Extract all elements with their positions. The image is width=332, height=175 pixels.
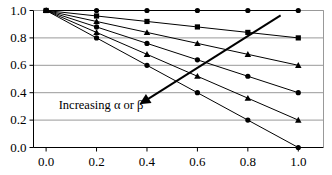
chart-figure: 0.00.20.40.60.81.0 0.00.20.40.60.81.0 In… (0, 0, 332, 175)
data-point (144, 63, 149, 68)
y-tick-label-0.6: 0.6 (0, 58, 27, 71)
data-point (93, 29, 100, 35)
series-line-3 (46, 11, 298, 93)
series-line-1 (46, 11, 298, 38)
data-point (144, 51, 151, 57)
data-point (296, 145, 301, 150)
plot-canvas (0, 0, 332, 175)
data-point (296, 35, 301, 40)
y-tick-label-0.0: 0.0 (0, 141, 27, 154)
y-tick-label-0.8: 0.8 (0, 31, 27, 44)
annotation-label-0: Increasing α or β (59, 99, 144, 112)
series-line-5 (46, 11, 298, 148)
data-point (195, 24, 200, 29)
x-tick-label-0.0: 0.0 (26, 155, 66, 168)
series-3 (44, 8, 301, 95)
data-point (194, 73, 201, 79)
data-point (144, 8, 149, 13)
y-tick-label-1.0: 1.0 (0, 4, 27, 17)
data-point (144, 19, 149, 24)
series-0 (44, 8, 301, 13)
data-point (245, 118, 250, 123)
data-point (195, 57, 200, 62)
x-tick-label-0.8: 0.8 (228, 155, 268, 168)
series-1 (44, 8, 301, 41)
series-5 (44, 8, 301, 150)
data-point (94, 8, 99, 13)
data-point (195, 8, 200, 13)
x-tick-label-0.2: 0.2 (77, 155, 117, 168)
x-tick-label-0.4: 0.4 (127, 155, 167, 168)
data-point (245, 95, 252, 101)
data-point (94, 24, 99, 29)
data-point (296, 8, 301, 13)
y-tick-label-0.4: 0.4 (0, 86, 27, 99)
data-point (44, 8, 49, 13)
data-series-group (43, 7, 302, 150)
x-tick-label-0.6: 0.6 (177, 155, 217, 168)
data-point (94, 13, 99, 18)
x-tick-label-1.0: 1.0 (278, 155, 318, 168)
data-point (144, 41, 149, 46)
data-point (195, 90, 200, 95)
y-tick-label-0.2: 0.2 (0, 113, 27, 126)
data-point (245, 8, 250, 13)
data-point (245, 74, 250, 79)
axis-ticks (30, 11, 299, 152)
data-point (296, 90, 301, 95)
data-point (94, 35, 99, 40)
